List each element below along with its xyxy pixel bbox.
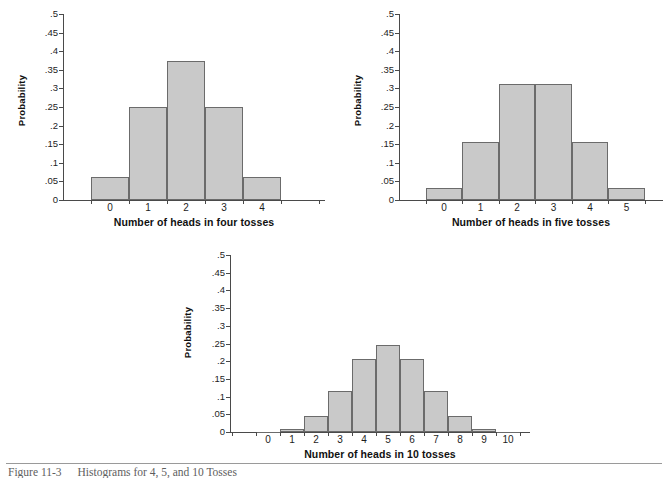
histogram-bar [280, 429, 304, 432]
x-axis-label: Number of heads in five tosses [399, 216, 663, 228]
x-axis-tick [232, 432, 233, 436]
y-axis-tick [395, 126, 399, 127]
x-axis-tick-label: 2 [497, 203, 537, 213]
y-axis-tick-label: .5 [360, 9, 394, 19]
histogram-bar [572, 142, 609, 200]
histogram-bar [472, 429, 496, 432]
y-axis-tick-label: .25 [360, 102, 394, 112]
y-axis-tick-label: .05 [24, 176, 58, 186]
y-axis-tick [226, 326, 230, 327]
y-axis-tick-label: 0 [24, 195, 58, 205]
x-axis-tick [281, 200, 282, 204]
y-axis-tick [395, 107, 399, 108]
histogram-bar [400, 359, 424, 432]
histogram-bar [608, 188, 645, 200]
x-axis-tick [91, 200, 92, 204]
x-axis-tick-label: 3 [534, 203, 574, 213]
x-axis-tick [243, 200, 244, 204]
x-axis-tick [400, 432, 401, 436]
histogram-bar [205, 107, 243, 200]
y-axis-tick [395, 163, 399, 164]
histogram-bar [535, 84, 572, 200]
y-axis-tick [226, 397, 230, 398]
histogram-bar [499, 84, 536, 200]
x-axis-tick [328, 432, 329, 436]
histogram-bar [328, 391, 352, 432]
y-axis-tick [59, 51, 63, 52]
x-axis-tick-label: 0 [424, 203, 464, 213]
x-axis-tick [645, 200, 646, 204]
histogram-bar [129, 107, 167, 200]
y-axis-tick-label: .3 [191, 321, 225, 331]
caption-divider [6, 463, 662, 464]
x-axis-tick [426, 200, 427, 204]
y-axis-tick-label: .2 [24, 121, 58, 131]
histogram-bar [256, 432, 280, 433]
y-axis-tick [226, 432, 230, 433]
y-axis-tick-label: .3 [24, 83, 58, 93]
y-axis-tick [59, 181, 63, 182]
y-axis-tick [395, 200, 399, 201]
x-axis-tick [167, 200, 168, 204]
y-axis-tick-label: .15 [360, 139, 394, 149]
x-axis-label: Number of heads in four tosses [63, 216, 325, 228]
y-axis-tick-label: .1 [360, 158, 394, 168]
x-axis-tick [376, 432, 377, 436]
histogram-bar [424, 391, 448, 432]
y-axis-tick [395, 14, 399, 15]
y-axis-tick [226, 308, 230, 309]
x-axis-line [399, 200, 663, 201]
histogram-four-tosses: Probability 0.05.1.15.2.25.3.35.4.45.501… [0, 0, 334, 232]
y-axis-tick-label: .2 [191, 356, 225, 366]
y-axis-tick [395, 181, 399, 182]
y-axis-tick-label: .35 [191, 303, 225, 313]
y-axis-tick [59, 144, 63, 145]
histogram-bar [167, 61, 205, 201]
x-axis-tick-label: 4 [570, 203, 610, 213]
x-axis-tick-label: 1 [461, 203, 501, 213]
y-axis-tick [226, 255, 230, 256]
y-axis-tick [59, 14, 63, 15]
y-axis-tick [59, 88, 63, 89]
x-axis-tick-label: 0 [90, 203, 130, 213]
y-axis-tick [59, 70, 63, 71]
y-axis-tick-label: .2 [360, 121, 394, 131]
histogram-bar [91, 177, 129, 200]
y-axis-tick [59, 33, 63, 34]
x-axis-tick [535, 200, 536, 204]
y-axis-tick-label: .25 [191, 339, 225, 349]
x-axis-tick [448, 432, 449, 436]
x-axis-tick-label: 4 [242, 203, 282, 213]
histogram-ten-tosses: Probability 0.05.1.15.2.25.3.35.4.45.501… [170, 245, 550, 460]
y-axis-tick-label: 0 [360, 195, 394, 205]
y-axis-tick [226, 361, 230, 362]
y-axis-tick-label: .3 [360, 83, 394, 93]
figure-caption-text: Histograms for 4, 5, and 10 Tosses [78, 466, 237, 478]
x-axis-tick [280, 432, 281, 436]
x-axis-tick [472, 432, 473, 436]
x-axis-tick [496, 432, 497, 436]
histogram-bar [243, 177, 281, 200]
x-axis-tick [499, 200, 500, 204]
y-axis-tick-label: .35 [360, 65, 394, 75]
y-axis-tick-label: .45 [360, 28, 394, 38]
y-axis-tick [59, 126, 63, 127]
x-axis-tick [319, 200, 320, 204]
y-axis-tick [395, 144, 399, 145]
x-axis-tick [572, 200, 573, 204]
y-axis-tick-label: .25 [24, 102, 58, 112]
y-axis-tick-label: .1 [24, 158, 58, 168]
histogram-bar [352, 359, 376, 432]
figure-number: Figure 11-3 [8, 466, 62, 478]
x-axis-tick-label: 2 [166, 203, 206, 213]
histogram-bar [376, 345, 400, 432]
figure-caption: Figure 11-3Histograms for 4, 5, and 10 T… [8, 466, 658, 478]
x-axis-tick-label: 3 [204, 203, 244, 213]
y-axis-tick-label: .15 [191, 374, 225, 384]
histogram-bar [448, 416, 472, 432]
x-axis-line [63, 200, 325, 201]
y-axis-tick-label: .45 [24, 28, 58, 38]
y-axis-tick [226, 414, 230, 415]
y-axis-tick [226, 273, 230, 274]
